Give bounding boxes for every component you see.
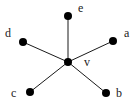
node-label-d: d bbox=[5, 26, 11, 40]
node-d bbox=[19, 38, 27, 46]
node-label-a: a bbox=[124, 26, 130, 40]
star-graph-diagram: vedacb bbox=[0, 0, 137, 103]
node-label-e: e bbox=[78, 1, 83, 15]
node-a bbox=[109, 37, 117, 45]
edge-v-c bbox=[30, 62, 68, 92]
node-v bbox=[64, 58, 72, 66]
node-label-v: v bbox=[84, 55, 90, 69]
node-label-b: b bbox=[116, 86, 122, 100]
node-b bbox=[102, 89, 110, 97]
node-label-c: c bbox=[11, 86, 16, 100]
edges-group bbox=[23, 16, 113, 93]
node-e bbox=[64, 12, 72, 20]
edge-v-d bbox=[23, 42, 68, 62]
edge-v-a bbox=[68, 41, 113, 62]
node-c bbox=[26, 88, 34, 96]
